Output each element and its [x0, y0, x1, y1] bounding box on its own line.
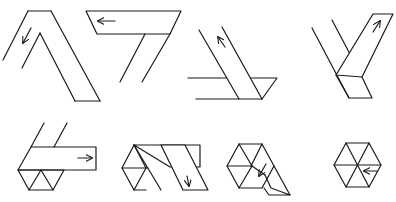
step-8-hexagon	[334, 143, 381, 187]
folding-diagram	[0, 0, 396, 202]
arrow-icon	[23, 28, 31, 43]
step-7-fold	[227, 144, 290, 195]
diagram-title: Folding a paper strip into a hexagon	[0, 0, 18, 1]
step-1-fold	[3, 11, 100, 101]
step-6-fold	[122, 145, 208, 190]
arrow-icon	[259, 164, 266, 176]
step-3-fold	[188, 27, 277, 99]
step-4-fold	[312, 14, 393, 98]
step-2-fold	[86, 11, 181, 82]
arrow-icon	[218, 37, 225, 47]
step-5-fold	[18, 123, 96, 190]
